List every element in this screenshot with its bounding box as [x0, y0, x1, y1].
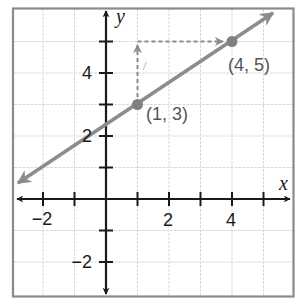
y-tick-label-2: 2	[82, 126, 92, 146]
slope-tick-mark	[143, 62, 146, 70]
point-1-3	[132, 99, 143, 110]
y-tick-label-neg2: −2	[71, 252, 92, 272]
axes	[17, 11, 290, 294]
rise-run-indicator	[138, 42, 224, 98]
point-label-1-3: (1, 3)	[146, 104, 188, 124]
x-tick-label-4: 4	[226, 210, 236, 230]
x-tick-label-neg2: −2	[32, 209, 53, 229]
x-axis-label: x	[278, 172, 288, 194]
point-label-4-5: (4, 5)	[228, 55, 270, 75]
y-tick-label-4: 4	[82, 63, 92, 83]
x-tick-label-2: 2	[163, 210, 173, 230]
graph-frame	[13, 9, 294, 297]
y-axis-label: y	[114, 5, 125, 28]
coordinate-graph: x y −2 2 4 4 2 −2 (1, 3) (4, 5)	[0, 0, 304, 308]
grid	[14, 9, 293, 296]
point-4-5	[227, 36, 238, 47]
